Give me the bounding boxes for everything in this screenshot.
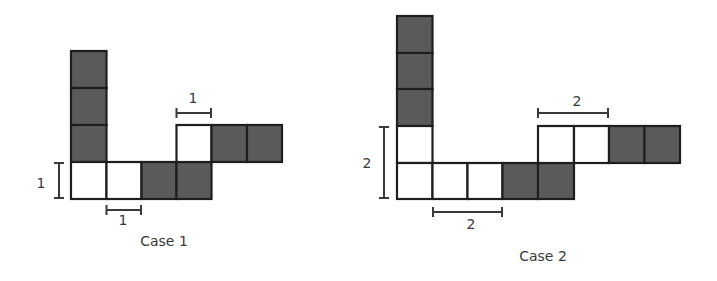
vertical-dimension-bracket — [54, 163, 64, 198]
case-2-vertical-label: 2 — [363, 155, 372, 171]
case-2-caption: Case 2 — [519, 248, 567, 264]
cell-empty — [71, 162, 107, 199]
cell-empty — [468, 163, 503, 199]
cell-filled — [142, 162, 177, 199]
cell-filled — [538, 163, 574, 199]
cell-filled — [645, 126, 681, 163]
case-1-caption: Case 1 — [140, 233, 188, 249]
cell-filled — [177, 162, 212, 199]
cell-filled — [397, 16, 433, 53]
top-dimension-bracket — [177, 108, 212, 118]
cell-filled — [247, 125, 282, 162]
case-1-figure — [0, 0, 717, 281]
case-1-bottom-label: 1 — [119, 212, 128, 228]
cell-filled — [397, 89, 433, 126]
cell-filled — [71, 88, 107, 125]
vertical-dimension-bracket — [379, 127, 389, 198]
cell-filled — [71, 125, 107, 162]
cell-filled — [71, 51, 107, 88]
cell-filled — [397, 53, 433, 89]
cell-empty — [538, 126, 574, 163]
cell-empty — [397, 163, 433, 199]
case-1-top-label: 1 — [189, 90, 198, 106]
top-dimension-bracket — [538, 108, 608, 118]
cell-filled — [212, 125, 248, 162]
case-2-grid — [397, 16, 680, 199]
case-2-top-label: 2 — [573, 93, 582, 109]
case-1-vertical-label: 1 — [37, 175, 46, 191]
cell-empty — [574, 126, 609, 163]
cell-empty — [433, 163, 468, 199]
cell-empty — [397, 126, 433, 163]
case-2-bottom-label: 2 — [467, 216, 476, 232]
cell-filled — [609, 126, 645, 163]
case-1-grid — [71, 51, 282, 199]
cell-empty — [107, 162, 142, 199]
cell-filled — [503, 163, 539, 199]
cell-empty — [177, 125, 212, 162]
